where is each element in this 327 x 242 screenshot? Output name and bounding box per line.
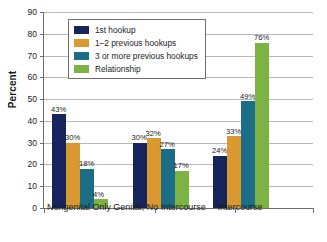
y-tick-label: 60: [13, 72, 37, 82]
legend-label: 1st hookup: [95, 25, 136, 35]
bar: 30%: [133, 143, 147, 208]
bar: 30%: [66, 143, 80, 208]
bar: 76%: [255, 43, 269, 209]
y-tick-mark: [40, 186, 44, 187]
x-tick-label: Intercourse: [170, 202, 310, 212]
y-tick-label: 50: [13, 94, 37, 104]
bar: 24%: [213, 156, 227, 208]
bar-value-label: 27%: [160, 140, 175, 149]
bar-value-label: 4%: [93, 190, 104, 199]
y-tick-label: 40: [13, 116, 37, 126]
legend-item: Relationship: [74, 62, 201, 75]
bar-value-label: 24%: [212, 146, 227, 155]
y-tick-mark: [40, 164, 44, 165]
legend-label: Relationship: [95, 64, 141, 74]
chart-legend: 1st hookup1–2 previous hookups3 or more …: [68, 19, 206, 79]
bar-chart: Percent 010203040506070809043%30%18%4%30…: [0, 0, 327, 242]
bar-value-label: 32%: [146, 129, 161, 138]
bar-value-label: 33%: [226, 127, 241, 136]
legend-swatch: [74, 65, 89, 73]
legend-swatch: [74, 52, 89, 60]
bar-value-label: 76%: [254, 33, 269, 42]
bar-value-label: 49%: [240, 92, 255, 101]
bar: 43%: [52, 114, 66, 208]
legend-item: 3 or more previous hookups: [74, 49, 201, 62]
legend-label: 1–2 previous hookups: [95, 38, 176, 48]
bar-group: 24%33%49%76%: [213, 12, 269, 208]
y-tick-label: 10: [13, 181, 37, 191]
bar-value-label: 30%: [65, 133, 80, 142]
bar: 27%: [161, 149, 175, 208]
y-tick-label: 30: [13, 138, 37, 148]
y-tick-label: 90: [13, 7, 37, 17]
legend-item: 1–2 previous hookups: [74, 36, 201, 49]
y-tick-mark: [40, 121, 44, 122]
y-tick-mark: [40, 99, 44, 100]
legend-swatch: [74, 39, 89, 47]
y-tick-mark: [40, 143, 44, 144]
legend-label: 3 or more previous hookups: [95, 51, 198, 61]
y-tick-mark: [40, 12, 44, 13]
bar: 33%: [227, 136, 241, 208]
y-tick-label: 80: [13, 29, 37, 39]
y-tick-label: 20: [13, 159, 37, 169]
y-tick-mark: [40, 77, 44, 78]
bar-value-label: 18%: [79, 159, 94, 168]
bar-value-label: 43%: [51, 105, 66, 114]
bar: 49%: [241, 101, 255, 208]
x-tick-mark: [313, 208, 314, 213]
y-tick-label: 70: [13, 51, 37, 61]
legend-swatch: [74, 26, 89, 34]
legend-item: 1st hookup: [74, 23, 201, 36]
bar-value-label: 17%: [174, 161, 189, 170]
bar: 32%: [147, 138, 161, 208]
y-axis-label: Percent: [7, 54, 18, 126]
bar-value-label: 30%: [132, 133, 147, 142]
y-tick-mark: [40, 34, 44, 35]
y-tick-mark: [40, 56, 44, 57]
